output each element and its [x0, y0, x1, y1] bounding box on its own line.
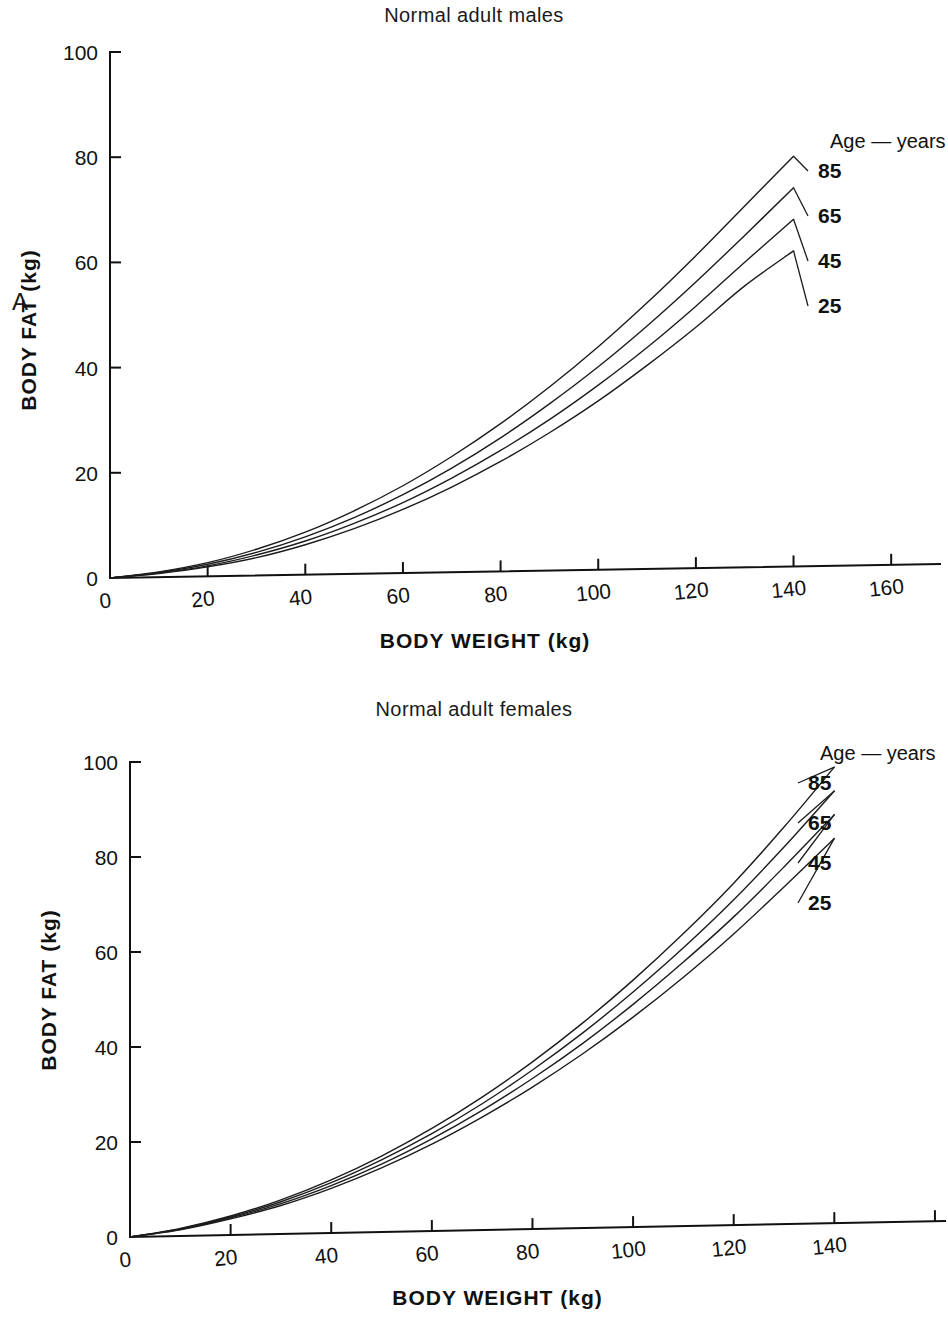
y-tick-label: 20 [95, 1131, 118, 1154]
y-tick-label: 0 [106, 1226, 118, 1249]
curve-age-85 [110, 156, 794, 578]
legend-label-85: 85 [818, 159, 842, 182]
y-axis-title: BODY FAT (kg) [37, 909, 60, 1071]
legend-leader-45 [794, 219, 808, 261]
panel-b: Normal adult females B 02040608010002040… [0, 660, 948, 1317]
legend-label-65: 65 [818, 204, 842, 227]
x-axis-title: BODY WEIGHT (kg) [392, 1286, 602, 1309]
curve-age-25 [130, 838, 834, 1237]
legend-label-85: 85 [808, 771, 832, 794]
legend-label-25: 25 [808, 891, 832, 914]
y-tick-label: 80 [95, 846, 118, 869]
x-tick-label: 60 [414, 1241, 440, 1266]
y-tick-label: 100 [63, 41, 98, 64]
x-tick-label: 60 [385, 583, 411, 608]
legend-leader-65 [794, 188, 808, 216]
curve-age-65 [130, 791, 834, 1237]
y-tick-label: 0 [86, 567, 98, 590]
y-tick-label: 40 [95, 1036, 118, 1059]
x-axis-title: BODY WEIGHT (kg) [380, 629, 590, 652]
y-tick-label: 40 [75, 357, 98, 380]
legend-leader-85 [794, 156, 808, 171]
panel-b-plot: 020406080100020406080100120140BODY WEIGH… [0, 660, 948, 1317]
curve-age-65 [110, 188, 794, 578]
legend-label-45: 45 [808, 851, 832, 874]
legend-label-45: 45 [818, 249, 842, 272]
curve-age-45 [130, 815, 834, 1237]
curve-age-85 [130, 767, 834, 1237]
curve-age-45 [110, 219, 794, 578]
curve-age-25 [110, 251, 794, 578]
x-tick-label: 0 [98, 588, 112, 612]
x-tick-label: 20 [213, 1245, 239, 1270]
legend-heading: Age — years [820, 742, 936, 764]
y-tick-label: 60 [75, 251, 98, 274]
x-tick-label: 100 [610, 1236, 647, 1263]
chart-b-svg: 020406080100020406080100120140BODY WEIGH… [0, 660, 948, 1317]
x-tick-label: 40 [314, 1243, 340, 1268]
x-tick-label: 80 [515, 1239, 541, 1264]
panel-a-plot: 020406080100020406080100120140160BODY WE… [0, 0, 948, 660]
legend-label-65: 65 [808, 811, 832, 834]
x-axis-line [110, 564, 940, 578]
x-tick-label: 140 [811, 1232, 848, 1259]
chart-a-svg: 020406080100020406080100120140160BODY WE… [0, 0, 948, 660]
y-axis-title: BODY FAT (kg) [17, 249, 40, 411]
x-tick-label: 160 [868, 574, 905, 601]
x-tick-label: 120 [710, 1234, 747, 1261]
y-tick-label: 20 [75, 462, 98, 485]
x-tick-label: 120 [672, 577, 709, 604]
legend-label-25: 25 [818, 294, 842, 317]
x-tick-label: 80 [483, 581, 509, 606]
x-tick-label: 40 [288, 585, 314, 610]
x-tick-label: 100 [575, 579, 612, 606]
x-tick-label: 0 [118, 1247, 132, 1271]
y-tick-label: 100 [83, 751, 118, 774]
legend-leader-25 [794, 251, 808, 306]
y-tick-label: 60 [95, 941, 118, 964]
legend-heading: Age — years [830, 130, 946, 152]
x-tick-label: 140 [770, 576, 807, 603]
panel-a: Normal adult males A 0204060801000204060… [0, 0, 948, 660]
x-tick-label: 20 [190, 586, 216, 611]
y-tick-label: 80 [75, 146, 98, 169]
